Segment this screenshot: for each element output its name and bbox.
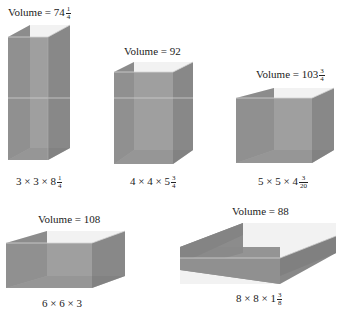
dimension-text: 5 × 5 × 4 bbox=[258, 175, 298, 187]
dimension-fraction: 320 bbox=[299, 175, 308, 190]
volume-text: Volume = bbox=[124, 45, 170, 57]
volume-text: Volume = bbox=[232, 205, 278, 217]
box-3 bbox=[236, 88, 334, 163]
fraction-denominator: 8 bbox=[277, 300, 283, 307]
volume-whole: 74 bbox=[54, 6, 65, 18]
box-5-volume-label: Volume = 88 bbox=[232, 206, 289, 217]
box-2-volume-label: Volume = 92 bbox=[124, 46, 181, 57]
box-5 bbox=[180, 223, 336, 284]
box-3-volume-label: Volume = 10334 bbox=[256, 68, 325, 83]
dimension-text: 8 × 8 × 1 bbox=[236, 292, 276, 304]
fraction-denominator: 4 bbox=[319, 76, 325, 83]
volume-whole: 88 bbox=[278, 205, 289, 217]
box-2-dimension-label: 4 × 4 × 534 bbox=[130, 175, 176, 190]
volume-whole: 92 bbox=[170, 45, 181, 57]
dimension-text: 3 × 3 × 8 bbox=[16, 175, 56, 187]
box-1-dimension-label: 3 × 3 × 814 bbox=[16, 175, 62, 190]
volume-text: Volume = bbox=[8, 6, 54, 18]
dimension-text: 6 × 6 × 3 bbox=[42, 297, 82, 309]
fraction-denominator: 4 bbox=[171, 183, 177, 190]
fraction-denominator: 20 bbox=[299, 183, 308, 190]
box-3-dimension-label: 5 × 5 × 4320 bbox=[258, 175, 308, 190]
volume-whole: 103 bbox=[302, 68, 319, 80]
fraction-denominator: 4 bbox=[57, 183, 63, 190]
volume-fraction: 34 bbox=[319, 68, 325, 83]
box-4-dimension-label: 6 × 6 × 3 bbox=[42, 298, 82, 309]
box-1-volume-label: Volume = 7414 bbox=[8, 6, 71, 21]
volume-whole: 108 bbox=[84, 213, 101, 225]
volume-fraction: 14 bbox=[66, 6, 72, 21]
volume-text: Volume = bbox=[256, 68, 302, 80]
dimension-fraction: 34 bbox=[171, 175, 177, 190]
box-4-volume-label: Volume = 108 bbox=[38, 214, 100, 225]
fraction-denominator: 4 bbox=[66, 14, 72, 21]
dimension-fraction: 38 bbox=[277, 292, 283, 307]
volume-text: Volume = bbox=[38, 213, 84, 225]
box-1 bbox=[8, 25, 70, 160]
dimension-text: 4 × 4 × 5 bbox=[130, 175, 170, 187]
box-4 bbox=[6, 231, 125, 288]
dimension-fraction: 14 bbox=[57, 175, 63, 190]
box-5-dimension-label: 8 × 8 × 138 bbox=[236, 292, 282, 307]
box-2 bbox=[114, 62, 193, 164]
